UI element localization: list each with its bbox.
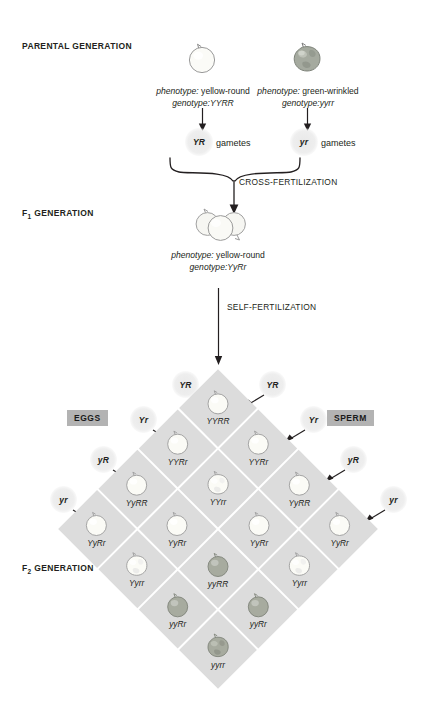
seed-green-round: [245, 591, 271, 617]
parent-left-genotype-key: genotype:: [172, 98, 210, 108]
parent-right-phenotype-value: green-wrinkled: [300, 86, 359, 96]
punnett-cell-seed: [165, 591, 191, 617]
parent-seed-yellow-round: [186, 41, 218, 75]
seed-green-round: [205, 551, 231, 577]
seed-green-round: [165, 591, 191, 617]
punnett-cell-genotype: yyRR: [208, 578, 228, 588]
punnett-cell-seed: [205, 632, 231, 658]
parent-right-gametes-word: gametes: [321, 138, 356, 148]
punnett-cell-genotype: Yyrr: [291, 578, 306, 588]
punnett-cell-genotype: YyRr: [330, 537, 348, 547]
punnett-cell-genotype: yyrr: [211, 659, 225, 669]
seed-yellow-wrinkled: [205, 470, 231, 496]
punnett-cell-genotype: YyRR: [288, 497, 310, 507]
punnett-cell-seed: [205, 470, 231, 496]
punnett-cell-seed: [326, 510, 352, 536]
punnett-cell-seed: [286, 551, 312, 577]
parent-right-phenotype-key: phenotype:: [257, 86, 300, 96]
seed-yellow-round: [326, 510, 352, 536]
seed-yellow-round: [124, 470, 150, 496]
f1-phenotype-key: phenotype:: [171, 250, 214, 260]
punnett-cell-seed: [205, 389, 231, 415]
punnett-cell-seed: [165, 510, 191, 536]
self-fertilization-label: SELF-FERTILIZATION: [227, 302, 316, 312]
punnett-cell-seed: [286, 470, 312, 496]
seed-yellow-round: [84, 510, 110, 536]
punnett-cell-genotype: YyRr: [168, 537, 186, 547]
punnett-cell-seed: [205, 551, 231, 577]
punnett-cell-genotype: YYRR: [206, 416, 229, 426]
punnett-cell-seed: [245, 430, 271, 456]
punnett-cell-seed: [245, 510, 271, 536]
f1-caption: phenotype: yellow-round genotype:YyRr: [126, 250, 310, 273]
seed-yellow-round: [205, 389, 231, 415]
punnett-cell-3-3[interactable]: yyrr: [179, 611, 257, 689]
f1-generation-label: F1 GENERATION: [22, 208, 94, 222]
parent-right-genotype-value: yyrr: [320, 98, 334, 108]
parent-right-gamete-bubble: yr: [290, 128, 318, 156]
punnett-cell-seed: [245, 591, 271, 617]
seed-yellow-round: [165, 430, 191, 456]
punnett-cell-genotype: YyRr: [249, 537, 267, 547]
punnett-cell-genotype: YYRr: [248, 457, 268, 467]
punnett-cell-seed: [124, 470, 150, 496]
parent-right-caption: phenotype: green-wrinkled genotype:yyrr: [213, 86, 403, 109]
punnett-cell-genotype: yyRr: [169, 618, 186, 628]
punnett-cell-genotype: yyRr: [250, 618, 267, 628]
parent-right-gamete-label: yr: [300, 137, 308, 147]
seed-green-wrinkled: [205, 632, 231, 658]
arrow-self-fertilization: [214, 288, 223, 366]
parent-right-genotype-key: genotype:: [282, 98, 320, 108]
punnett-cell-genotype: YyRr: [88, 537, 106, 547]
f1-seed-cluster: [190, 205, 252, 249]
seed-yellow-wrinkled: [286, 551, 312, 577]
cross-fertilization-label: CROSS-FERTILIZATION: [239, 177, 337, 187]
parent-left-gametes-word: gametes: [216, 138, 251, 148]
f1-genotype-key: genotype:: [190, 262, 228, 272]
parental-generation-label: PARENTAL GENERATION: [22, 41, 132, 52]
seed-yellow-round: [286, 470, 312, 496]
punnett-cell-genotype: YYrr: [210, 497, 227, 507]
punnett-cell-seed: [84, 510, 110, 536]
f1-phenotype-value: yellow-round: [214, 250, 265, 260]
punnett-cell-seed: [124, 551, 150, 577]
seed-yellow-round: [245, 430, 271, 456]
parent-left-gamete-label: YR: [193, 137, 205, 147]
parent-left-gamete-bubble: YR: [185, 128, 213, 156]
punnett-square: YYRRYYRrYyRRYyRrYYRrYYrrYyRrYyrrYyRRYyRr…: [58, 369, 378, 689]
parent-left-phenotype-key: phenotype:: [156, 86, 199, 96]
punnett-cell-genotype: Yyrr: [130, 578, 145, 588]
punnett-cell-seed: [165, 430, 191, 456]
f1-genotype-value: YyRr: [227, 262, 246, 272]
punnett-cell-genotype: YyRR: [126, 497, 148, 507]
parent-seed-green-wrinkled: [291, 40, 323, 74]
seed-yellow-round: [165, 510, 191, 536]
seed-yellow-round: [245, 510, 271, 536]
seed-yellow-wrinkled: [124, 551, 150, 577]
punnett-cell-genotype: YYRr: [168, 457, 188, 467]
